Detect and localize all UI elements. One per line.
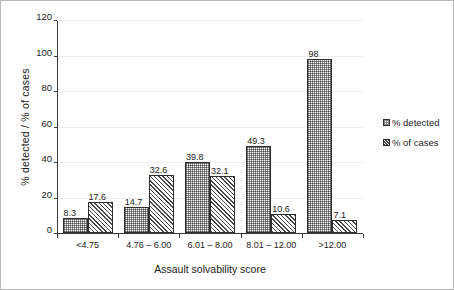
bar-value-label: 14.7 bbox=[125, 197, 143, 207]
bar-group: 49.310.6 bbox=[241, 146, 302, 234]
y-tick-label: 80 bbox=[41, 82, 52, 93]
bar-detected[interactable]: 14.7 bbox=[124, 207, 149, 233]
bar-value-label: 7.1 bbox=[333, 210, 346, 220]
chart-figure: % detected / % of cases 020406080100120 … bbox=[0, 0, 454, 290]
bar-group: 39.832.1 bbox=[179, 162, 240, 233]
bar-rect[interactable]: 8.3 bbox=[63, 218, 88, 233]
x-tick-label: >12.00 bbox=[319, 240, 347, 250]
y-tick-label: 20 bbox=[41, 188, 52, 199]
y-tick-label: 100 bbox=[36, 46, 52, 57]
bar-group: 8.317.6 bbox=[57, 202, 118, 233]
bar-rect[interactable]: 98 bbox=[307, 59, 332, 233]
y-tick-mark bbox=[54, 127, 57, 128]
gridline bbox=[58, 20, 363, 21]
legend-swatch-detected-icon bbox=[383, 119, 390, 126]
bar-rect[interactable]: 39.8 bbox=[185, 162, 210, 233]
x-tick-label: 8.01 – 12.00 bbox=[246, 240, 296, 250]
legend-label-cases: % of cases bbox=[392, 137, 438, 148]
bar-cases[interactable]: 32.6 bbox=[149, 175, 174, 233]
bar-value-label: 8.3 bbox=[64, 208, 77, 218]
y-tick-mark bbox=[54, 91, 57, 92]
bar-value-label: 17.6 bbox=[89, 192, 107, 202]
bar-rect[interactable]: 32.6 bbox=[149, 175, 174, 233]
legend-swatch-cases-icon bbox=[383, 139, 390, 146]
bar-detected[interactable]: 8.3 bbox=[63, 218, 88, 233]
bar-detected[interactable]: 39.8 bbox=[185, 162, 210, 233]
legend-label-detected: % detected bbox=[392, 117, 440, 128]
bar-rect[interactable]: 7.1 bbox=[332, 220, 357, 233]
y-tick-label: 120 bbox=[36, 11, 52, 22]
bar-cases[interactable]: 7.1 bbox=[332, 220, 357, 233]
chart-legend: % detected % of cases bbox=[383, 117, 440, 157]
x-tick-mark bbox=[302, 234, 303, 238]
plot-area: 020406080100120 8.317.614.732.639.832.14… bbox=[57, 21, 363, 234]
bar-rect[interactable]: 49.3 bbox=[246, 146, 271, 234]
bar-value-label: 39.8 bbox=[186, 152, 204, 162]
x-tick-label: 6.01 – 8.00 bbox=[187, 240, 232, 250]
y-tick-mark bbox=[54, 20, 57, 21]
bar-value-label: 49.3 bbox=[247, 136, 265, 146]
bar-rect[interactable]: 14.7 bbox=[124, 207, 149, 233]
legend-item-detected: % detected bbox=[383, 117, 440, 128]
x-axis-title: Assault solvability score bbox=[57, 263, 363, 275]
x-axis-line bbox=[57, 233, 363, 234]
bar-cases[interactable]: 17.6 bbox=[88, 202, 113, 233]
legend-item-cases: % of cases bbox=[383, 137, 440, 148]
bar-detected[interactable]: 98 bbox=[307, 59, 332, 233]
x-tick-mark bbox=[57, 234, 58, 238]
bar-rect[interactable]: 32.1 bbox=[210, 176, 235, 233]
y-tick-label: 60 bbox=[41, 117, 52, 128]
x-tick-mark bbox=[118, 234, 119, 238]
y-tick-mark bbox=[54, 198, 57, 199]
y-tick-label: 40 bbox=[41, 153, 52, 164]
y-tick-mark bbox=[54, 56, 57, 57]
bar-cases[interactable]: 10.6 bbox=[271, 214, 296, 233]
x-tick-mark bbox=[363, 234, 364, 238]
bar-rect[interactable]: 17.6 bbox=[88, 202, 113, 233]
bar-value-label: 32.6 bbox=[150, 165, 168, 175]
bar-rect[interactable]: 10.6 bbox=[271, 214, 296, 233]
x-tick-mark bbox=[241, 234, 242, 238]
x-tick-label: <4.75 bbox=[76, 240, 99, 250]
bar-group: 14.732.6 bbox=[118, 175, 179, 233]
y-tick-mark bbox=[54, 162, 57, 163]
bar-value-label: 32.1 bbox=[211, 166, 229, 176]
bar-cases[interactable]: 32.1 bbox=[210, 176, 235, 233]
bar-value-label: 98 bbox=[308, 49, 318, 59]
y-axis-title: % detected / % of cases bbox=[19, 11, 35, 243]
bar-group: 987.1 bbox=[302, 59, 363, 233]
x-tick-mark bbox=[179, 234, 180, 238]
y-tick-label: 0 bbox=[47, 224, 52, 235]
bar-value-label: 10.6 bbox=[272, 204, 290, 214]
x-tick-label: 4.76 – 6.00 bbox=[126, 240, 171, 250]
bar-detected[interactable]: 49.3 bbox=[246, 146, 271, 234]
